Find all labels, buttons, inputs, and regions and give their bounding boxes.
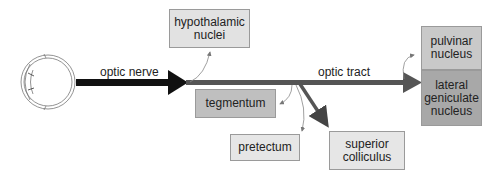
optic-nerve-label: optic nerve [100, 65, 159, 79]
superior-colliculus-box: superior colliculus [329, 131, 405, 170]
pretectum-branch [296, 85, 304, 131]
pulvinar-nucleus-box: pulvinar nucleus [421, 26, 482, 70]
pretectum-box: pretectum [230, 134, 300, 161]
tegmentum-label: tegmentum [205, 97, 265, 110]
eye-icon [21, 54, 75, 110]
lgn-line3: nucleus [431, 105, 472, 118]
pretectum-label: pretectum [238, 141, 291, 154]
hypothalamic-nuclei-box: hypothalamic nuclei [169, 9, 250, 48]
lateral-geniculate-nucleus-box: lateral geniculate nucleus [421, 70, 482, 126]
hypothalamic-line2: nuclei [194, 29, 225, 42]
optic-nerve-arrowhead [168, 70, 188, 95]
lgn-line2: geniculate [424, 92, 479, 105]
pulvinar-line2: nucleus [431, 48, 472, 61]
optic-tract-label: optic tract [318, 65, 370, 79]
optic-tract-arrowhead [403, 72, 422, 93]
hypothalamic-branch [190, 52, 210, 82]
superior-colliculus-line2: colliculus [343, 151, 392, 164]
lgn-line1: lateral [435, 79, 468, 92]
tegmentum-box: tegmentum [195, 89, 276, 118]
superior-colliculus-line1: superior [345, 138, 388, 151]
optic-nerve-line [76, 79, 176, 86]
hypothalamic-line1: hypothalamic [174, 16, 245, 29]
tegmentum-branch [280, 85, 292, 104]
